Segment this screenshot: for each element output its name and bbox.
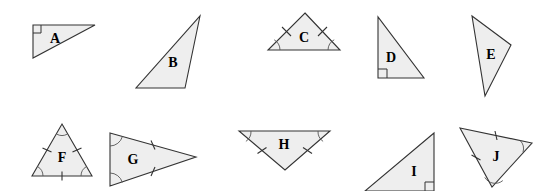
triangle-a-label: A <box>50 31 61 46</box>
triangle-i-shape <box>365 133 434 191</box>
triangle-figure-h: H <box>239 131 330 170</box>
triangle-g-shape <box>110 133 196 186</box>
triangle-figure-d: D <box>378 17 424 78</box>
triangle-worksheet: A B C D E <box>0 0 553 191</box>
triangle-e-label: E <box>486 47 495 62</box>
triangle-i-label: I <box>411 164 416 179</box>
triangle-figure-c: C <box>268 13 340 50</box>
triangle-h-label: H <box>279 137 290 152</box>
triangle-figure-e: E <box>472 16 511 96</box>
triangle-figure-i: I <box>365 133 434 191</box>
triangle-figure-a: A <box>33 25 95 58</box>
triangle-f-label: F <box>58 150 67 165</box>
triangle-a-shape <box>33 25 95 58</box>
triangle-b-label: B <box>168 55 177 70</box>
triangle-figure-j: J <box>460 128 532 187</box>
triangle-b-shape <box>136 16 200 88</box>
triangle-g-label: G <box>128 152 139 167</box>
triangle-c-label: C <box>299 30 309 45</box>
triangle-figure-f: F <box>32 124 92 181</box>
triangle-figure-canvas: A B C D E <box>0 0 553 191</box>
triangle-d-label: D <box>386 50 396 65</box>
triangle-j-label: J <box>493 149 500 164</box>
triangle-figure-b: B <box>136 16 200 88</box>
triangle-figure-g: G <box>110 133 196 186</box>
